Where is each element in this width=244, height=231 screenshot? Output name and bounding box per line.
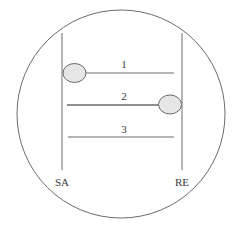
bond-3: 3 [68, 123, 174, 137]
bond-1-anchor-ellipse [63, 64, 86, 83]
bond-2-anchor-ellipse [159, 95, 182, 114]
bond-2: 2 [67, 90, 182, 114]
bond-1: 1 [63, 58, 174, 83]
boundary-circle [17, 10, 225, 218]
bond-3-label: 3 [121, 123, 127, 135]
bond-1-label: 1 [121, 58, 127, 70]
sa-label: SA [55, 176, 69, 188]
re-label: RE [175, 176, 189, 188]
bond-diagram: SA RE 1 2 3 [0, 0, 244, 231]
bond-2-label: 2 [121, 90, 127, 102]
